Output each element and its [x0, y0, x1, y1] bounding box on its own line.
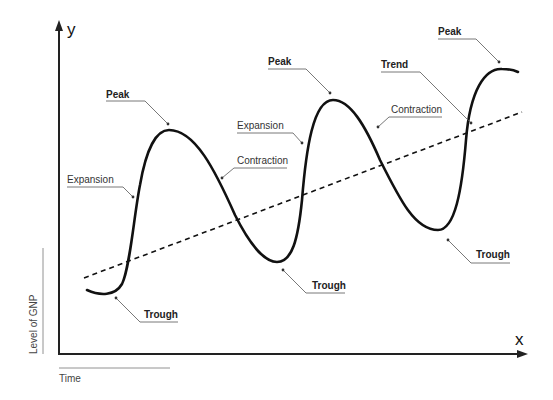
expansion-1-annotation: Expansion: [67, 174, 134, 198]
contraction-2-annotation: Contraction: [377, 104, 443, 128]
peak-3-annotation: Peak: [438, 26, 500, 63]
x-axis-arrow-icon: [517, 350, 528, 358]
axes: y x: [55, 20, 528, 358]
expansion-2-label: Expansion: [237, 120, 284, 131]
y-axis-title: Level of GNP: [28, 294, 39, 354]
trough-1-annotation: Trough: [115, 297, 178, 322]
trough-3-label: Trough: [476, 249, 510, 260]
contraction-1-annotation: Contraction: [221, 155, 289, 179]
business-cycle-curve: [87, 69, 518, 294]
contraction-1-label: Contraction: [237, 155, 288, 166]
expansion-1-label: Expansion: [67, 174, 114, 185]
business-cycle-diagram: y x Level of GNP Time Peak Expansion Con…: [0, 0, 553, 400]
y-axis-letter: y: [67, 20, 76, 39]
peak-2-annotation: Peak: [268, 56, 331, 94]
peak-2-label: Peak: [268, 56, 292, 67]
peak-1-annotation: Peak: [106, 89, 169, 125]
trough-2-label: Trough: [312, 280, 346, 291]
trough-2-annotation: Trough: [282, 269, 346, 293]
trough-3-annotation: Trough: [447, 239, 510, 263]
peak-3-label: Peak: [438, 26, 462, 37]
expansion-2-annotation: Expansion: [237, 120, 303, 144]
x-axis-title: Time: [59, 373, 81, 384]
y-axis-arrow-icon: [55, 20, 63, 31]
contraction-2-label: Contraction: [391, 104, 442, 115]
trend-label: Trend: [381, 59, 408, 70]
trough-1-label: Trough: [144, 309, 178, 320]
x-axis-letter: x: [515, 330, 524, 349]
peak-1-label: Peak: [106, 89, 130, 100]
